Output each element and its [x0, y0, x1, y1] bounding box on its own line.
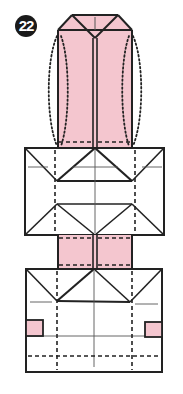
lower-tube — [58, 235, 132, 269]
upper-tube — [58, 15, 132, 148]
right-pink-square — [145, 322, 162, 337]
origami-diagram — [0, 0, 183, 394]
bottom-frame — [26, 269, 162, 372]
middle-frame — [25, 148, 164, 235]
left-pink-square — [26, 320, 43, 336]
